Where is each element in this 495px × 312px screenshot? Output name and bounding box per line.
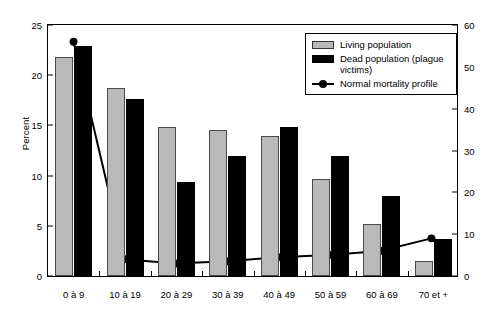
y-tick-label-right: 40 xyxy=(464,103,475,114)
x-axis-category-label: 60 à 69 xyxy=(366,289,398,300)
y-tick-label-right: 50 xyxy=(464,61,475,72)
y-tick-label-left: 5 xyxy=(37,220,42,231)
x-tick-mark xyxy=(305,271,306,276)
y-tick-label-left: 20 xyxy=(31,70,42,81)
y-tick-mark-right xyxy=(452,276,457,277)
bar-dead-population xyxy=(177,182,195,276)
dead-swatch-icon xyxy=(312,55,334,63)
bar-dead-population xyxy=(382,196,400,276)
y-tick-label-right: 10 xyxy=(464,229,475,240)
mortality-profile-marker xyxy=(70,38,78,46)
y-tick-label-left: 0 xyxy=(37,271,42,282)
y-tick-label-left: 10 xyxy=(31,170,42,181)
y-tick-mark-right xyxy=(452,234,457,235)
legend-label-mortality: Normal mortality profile xyxy=(340,78,438,90)
y-tick-label-right: 30 xyxy=(464,145,475,156)
bar-dead-population xyxy=(280,127,298,276)
y-tick-mark-right xyxy=(452,25,457,26)
bar-dead-population xyxy=(74,46,92,276)
legend-item-dead: Dead population (plague victims) xyxy=(312,53,449,76)
bar-dead-population xyxy=(126,99,144,276)
y-tick-mark-left xyxy=(48,75,53,76)
bar-living-population xyxy=(363,224,381,276)
y-tick-label-right: 60 xyxy=(464,20,475,31)
y-tick-mark-right xyxy=(452,108,457,109)
y-tick-mark-left xyxy=(48,175,53,176)
x-axis-category-label: 20 à 29 xyxy=(161,289,193,300)
bar-dead-population xyxy=(228,156,246,276)
legend-label-dead: Dead population (plague victims) xyxy=(340,53,449,76)
bar-living-population xyxy=(55,57,73,276)
y-tick-mark-left xyxy=(48,276,53,277)
x-tick-mark xyxy=(151,271,152,276)
bar-living-population xyxy=(261,136,279,276)
line-marker-swatch-icon xyxy=(312,80,334,88)
y-tick-label-left: 25 xyxy=(31,20,42,31)
chart-legend: Living population Dead population (plagu… xyxy=(305,33,457,95)
x-tick-mark xyxy=(254,271,255,276)
y-tick-mark-right xyxy=(452,150,457,151)
chart-container: Percent 051015202501020304050600 à 910 à… xyxy=(0,0,495,312)
y-tick-mark-left xyxy=(48,125,53,126)
legend-item-mortality: Normal mortality profile xyxy=(312,78,449,90)
x-tick-mark xyxy=(99,271,100,276)
y-tick-mark-left xyxy=(48,25,53,26)
y-axis-title: Percent xyxy=(20,89,31,179)
x-axis-category-label: 40 à 49 xyxy=(263,289,295,300)
bar-living-population xyxy=(158,127,176,276)
y-tick-mark-right xyxy=(452,192,457,193)
living-swatch-icon xyxy=(312,41,334,49)
bar-living-population xyxy=(209,130,227,276)
x-axis-category-label: 70 et + xyxy=(419,289,448,300)
legend-label-living: Living population xyxy=(340,39,411,51)
y-tick-label-left: 15 xyxy=(31,120,42,131)
y-tick-label-right: 20 xyxy=(464,187,475,198)
x-axis-category-label: 0 à 9 xyxy=(63,289,84,300)
x-tick-mark xyxy=(356,271,357,276)
bar-living-population xyxy=(312,179,330,276)
bar-living-population xyxy=(415,261,433,276)
legend-item-living: Living population xyxy=(312,39,449,51)
y-tick-mark-left xyxy=(48,225,53,226)
x-axis-category-label: 30 à 39 xyxy=(212,289,244,300)
bar-dead-population xyxy=(434,239,452,276)
x-tick-mark xyxy=(202,271,203,276)
bar-living-population xyxy=(107,88,125,276)
y-tick-label-right: 0 xyxy=(464,271,469,282)
bar-dead-population xyxy=(331,156,349,276)
x-axis-category-label: 50 à 59 xyxy=(315,289,347,300)
x-tick-mark xyxy=(408,271,409,276)
x-axis-category-label: 10 à 19 xyxy=(109,289,141,300)
